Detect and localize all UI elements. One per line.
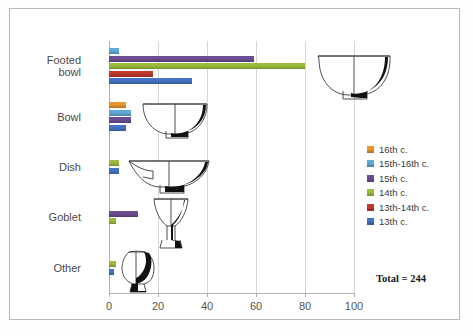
legend-item-16thc[interactable]: 16th c. xyxy=(367,142,429,157)
bar-bowl-15th-16thc xyxy=(109,110,131,116)
legend: 16th c.15th-16th c.15th c.14th c.13th-14… xyxy=(367,142,429,229)
legend-swatch-icon xyxy=(367,189,374,196)
x-tick-20 xyxy=(158,293,159,297)
bar-dish-13thc xyxy=(109,168,119,174)
y-category-bowl: Bowl xyxy=(0,111,81,123)
total-label: Total = 244 xyxy=(376,273,426,284)
bar-bowl-16thc xyxy=(109,102,126,108)
category-label-line: Other xyxy=(0,262,81,274)
x-tick-100 xyxy=(354,293,355,297)
legend-item-15th-16thc[interactable]: 15th-16th c. xyxy=(367,157,429,172)
category-label-line: bowl xyxy=(0,66,81,78)
y-category-footed: Footedbowl xyxy=(0,54,81,78)
bar-footed-bowl-13thc xyxy=(109,78,192,84)
x-tick-label-100: 100 xyxy=(334,300,374,312)
bar-footed-bowl-14thc xyxy=(109,63,305,69)
legend-swatch-icon xyxy=(367,218,374,225)
bar-dish-14thc xyxy=(109,160,119,166)
plot-area xyxy=(109,41,354,293)
x-tick-label-80: 80 xyxy=(285,300,325,312)
gridline-40 xyxy=(207,41,208,293)
legend-label: 13th c. xyxy=(379,216,408,227)
bar-other-13thc xyxy=(109,269,114,275)
legend-label: 16th c. xyxy=(379,144,408,155)
legend-item-15thc[interactable]: 15th c. xyxy=(367,171,429,186)
legend-item-14thc[interactable]: 14th c. xyxy=(367,186,429,201)
legend-label: 15th c. xyxy=(379,173,408,184)
bar-goblet-15thc xyxy=(109,211,138,217)
x-tick-label-60: 60 xyxy=(236,300,276,312)
category-label-line: Footed xyxy=(0,54,81,66)
gridline-80 xyxy=(305,41,306,293)
legend-item-13th-14thc[interactable]: 13th-14th c. xyxy=(367,200,429,215)
category-label-line: Bowl xyxy=(0,111,81,123)
bar-footed-bowl-15thc xyxy=(109,56,254,62)
x-axis-line xyxy=(109,293,355,294)
chart-figure: 020406080100 FootedbowlBowlDishGobletOth… xyxy=(0,0,473,336)
legend-swatch-icon xyxy=(367,160,374,167)
y-category-goblet: Goblet xyxy=(0,211,81,223)
bar-goblet-14thc xyxy=(109,218,116,224)
bar-bowl-13thc xyxy=(109,125,126,131)
y-category-other: Other xyxy=(0,262,81,274)
bar-footed-bowl-15th-16thc xyxy=(109,48,119,54)
category-label-line: Goblet xyxy=(0,211,81,223)
x-tick-label-0: 0 xyxy=(89,300,129,312)
category-label-line: Dish xyxy=(0,161,81,173)
y-category-dish: Dish xyxy=(0,161,81,173)
gridline-100 xyxy=(354,41,355,293)
legend-swatch-icon xyxy=(367,175,374,182)
bar-bowl-15thc xyxy=(109,117,131,123)
legend-swatch-icon xyxy=(367,146,374,153)
legend-label: 13th-14th c. xyxy=(379,202,429,213)
x-tick-0 xyxy=(109,293,110,297)
x-tick-label-40: 40 xyxy=(187,300,227,312)
legend-label: 15th-16th c. xyxy=(379,158,429,169)
x-tick-60 xyxy=(256,293,257,297)
bar-footed-bowl-13th-14thc xyxy=(109,71,153,77)
x-tick-80 xyxy=(305,293,306,297)
figure-frame: 020406080100 FootedbowlBowlDishGobletOth… xyxy=(9,8,460,320)
gridline-60 xyxy=(256,41,257,293)
x-tick-40 xyxy=(207,293,208,297)
legend-item-13thc[interactable]: 13th c. xyxy=(367,215,429,230)
bar-other-14thc xyxy=(109,261,116,267)
legend-label: 14th c. xyxy=(379,187,408,198)
x-tick-label-20: 20 xyxy=(138,300,178,312)
legend-swatch-icon xyxy=(367,204,374,211)
